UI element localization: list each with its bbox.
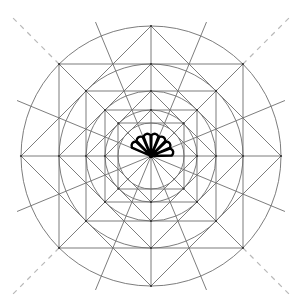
vertex-dot xyxy=(182,187,184,189)
vertex-dot xyxy=(117,187,119,189)
dashed-line xyxy=(243,17,290,64)
vertex-dot xyxy=(196,155,198,157)
fan-hub xyxy=(149,154,153,158)
vertex-dot xyxy=(242,63,244,65)
vertex-dot xyxy=(196,201,198,203)
vertex-dot xyxy=(150,247,152,249)
dashed-line xyxy=(12,248,59,295)
vertex-dot xyxy=(215,90,217,92)
center-fan-shell-motif xyxy=(132,134,174,158)
vertex-dot xyxy=(242,155,244,157)
vertex-dot xyxy=(85,220,87,222)
vertex-dot xyxy=(215,155,217,157)
radial-line xyxy=(96,156,151,290)
vertex-dot xyxy=(85,90,87,92)
dashed-line xyxy=(243,248,290,295)
vertex-dot xyxy=(104,109,106,111)
vertex-dot xyxy=(150,90,152,92)
vertex-dot xyxy=(20,155,22,157)
diagram-canvas xyxy=(0,0,301,308)
vertex-dot xyxy=(150,63,152,65)
vertex-dot xyxy=(215,220,217,222)
vertex-dot xyxy=(85,155,87,157)
vertex-dot xyxy=(117,122,119,124)
vertex-dot xyxy=(150,109,152,111)
vertex-dot xyxy=(58,155,60,157)
vertex-dot xyxy=(150,25,152,27)
radial-line xyxy=(151,156,285,211)
vertex-dot xyxy=(242,247,244,249)
radial-line xyxy=(17,156,151,211)
vertex-dot xyxy=(280,155,282,157)
vertex-dot xyxy=(58,63,60,65)
dashed-line xyxy=(12,17,59,64)
vertex-dot xyxy=(150,220,152,222)
vertex-dot xyxy=(182,122,184,124)
vertex-dot xyxy=(196,109,198,111)
vertex-dot xyxy=(150,285,152,287)
vertex-dot xyxy=(104,201,106,203)
geometric-construction-figure xyxy=(0,0,301,308)
vertex-dot xyxy=(150,201,152,203)
vertex-dot xyxy=(58,247,60,249)
radial-line xyxy=(151,156,206,290)
vertex-dot xyxy=(104,155,106,157)
